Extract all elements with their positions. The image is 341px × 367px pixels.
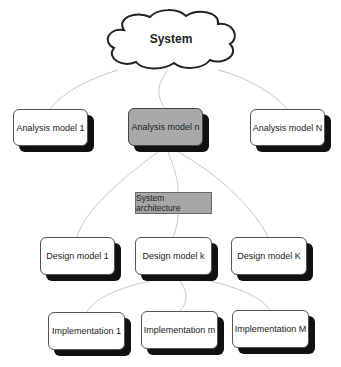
diagram-canvas: System Analysis model 1 Analysis model n… (0, 0, 341, 367)
edge-designk-implm (180, 281, 186, 311)
implementation-m-node[interactable]: Implementation m (141, 311, 224, 355)
edge-arch-designk (173, 214, 178, 237)
system-label: System (102, 32, 240, 46)
implementation-1-node[interactable]: Implementation 1 (48, 312, 131, 356)
analysis-model-1-node[interactable]: Analysis model 1 (13, 109, 94, 152)
system-architecture-node[interactable]: System architecture (135, 192, 212, 214)
edge-analysisn-arch (168, 152, 178, 192)
design-model-1-node[interactable]: Design model 1 (40, 237, 121, 281)
system-cloud-node[interactable]: System (102, 8, 240, 72)
analysis-model-n-node[interactable]: Analysis model n (128, 108, 209, 152)
design-model-K-box: Design model K (231, 237, 307, 275)
implementation-M-node[interactable]: Implementation M (232, 310, 315, 354)
edge-system-analysis1 (50, 70, 118, 109)
analysis-model-n-box: Analysis model n (128, 108, 203, 146)
edge-system-analysisn (159, 70, 168, 108)
design-model-k-box: Design model k (135, 237, 212, 275)
analysis-model-1-box: Analysis model 1 (13, 109, 88, 146)
analysis-model-N-node[interactable]: Analysis model N (250, 109, 331, 152)
implementation-M-box: Implementation M (232, 310, 309, 348)
design-model-k-node[interactable]: Design model k (135, 237, 218, 281)
design-model-1-box: Design model 1 (40, 237, 115, 275)
edge-designk-implM (210, 281, 270, 310)
edge-designk-impl1 (87, 281, 150, 312)
analysis-model-N-box: Analysis model N (250, 109, 325, 146)
implementation-1-box: Implementation 1 (48, 312, 125, 350)
design-model-K-node[interactable]: Design model K (231, 237, 313, 281)
edge-system-analysisN (218, 70, 287, 109)
implementation-m-box: Implementation m (141, 311, 218, 349)
